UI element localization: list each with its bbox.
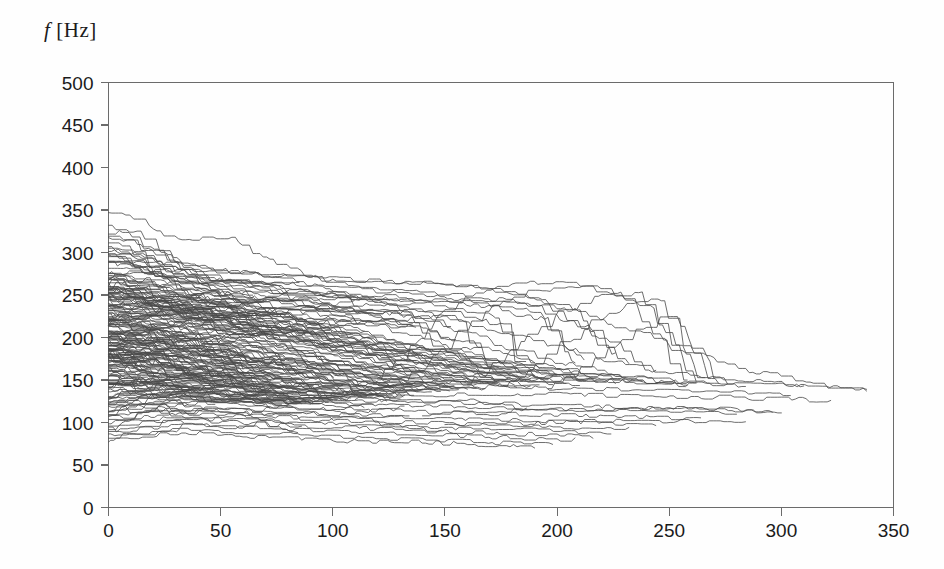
x-tick-label: 150	[429, 520, 461, 541]
y-tick-label: 50	[72, 455, 93, 476]
y-tick-label: 400	[62, 158, 94, 179]
pitch-contour	[355, 392, 830, 402]
pitch-contour-lines	[109, 213, 867, 448]
y-tick-label: 100	[62, 413, 94, 434]
x-tick-label: 300	[766, 520, 798, 541]
x-tick-label: 50	[210, 520, 231, 541]
y-tick-label: 150	[62, 370, 94, 391]
pitch-contour	[109, 428, 553, 444]
x-tick-label: 250	[653, 520, 685, 541]
y-tick-label: 200	[62, 328, 94, 349]
pitch-contour	[109, 407, 656, 425]
y-tick-label: 0	[83, 498, 94, 519]
y-tick-label: 300	[62, 243, 94, 264]
x-tick-label: 200	[541, 520, 573, 541]
y-tick-label: 250	[62, 285, 94, 306]
chart-figure: f[Hz] 0501001502002503003504004505000501…	[0, 0, 944, 569]
y-tick-label: 450	[62, 115, 94, 136]
y-tick-label: 500	[62, 73, 94, 94]
x-tick-label: 0	[103, 520, 114, 541]
x-tick-label: 100	[317, 520, 349, 541]
x-tick-label: 350	[878, 520, 910, 541]
pitch-contour	[109, 424, 576, 441]
y-tick-label: 350	[62, 200, 94, 221]
plot-area: 0501001502002503003504004505000501001502…	[0, 0, 944, 569]
